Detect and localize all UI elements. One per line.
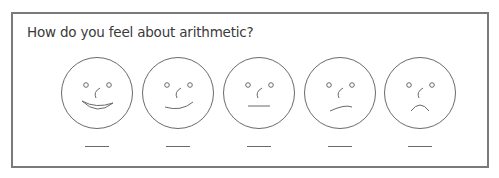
answer-blank-neutral[interactable] bbox=[247, 146, 271, 147]
neutral-face-icon[interactable] bbox=[222, 56, 296, 130]
answer-blank-happy[interactable] bbox=[166, 146, 190, 147]
answer-blank-sad[interactable] bbox=[408, 146, 432, 147]
very-happy-face-icon[interactable] bbox=[60, 56, 134, 130]
unhappy-face-icon[interactable] bbox=[303, 56, 377, 130]
happy-face-icon[interactable] bbox=[141, 56, 215, 130]
answer-blank-unhappy[interactable] bbox=[328, 146, 352, 147]
question-text: How do you feel about arithmetic? bbox=[27, 24, 254, 40]
sad-face-icon[interactable] bbox=[383, 56, 457, 130]
answer-blank-very-happy[interactable] bbox=[85, 146, 109, 147]
